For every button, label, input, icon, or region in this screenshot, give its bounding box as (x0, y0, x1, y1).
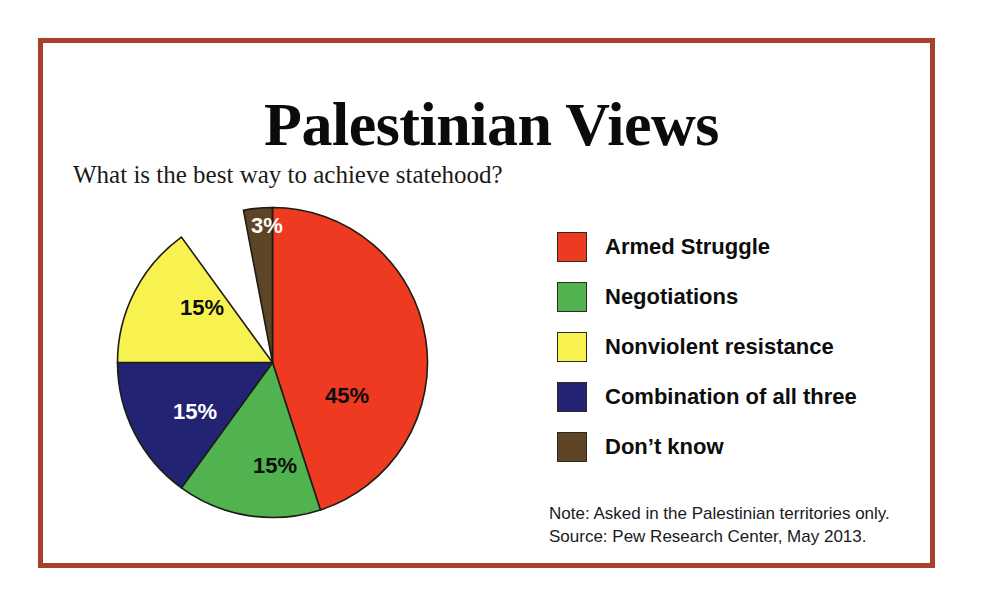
legend-item[interactable]: Nonviolent resistance (557, 322, 917, 372)
legend-item[interactable]: Combination of all three (557, 372, 917, 422)
legend-color-swatch (557, 432, 587, 462)
chart-notes: Note: Asked in the Palestinian territori… (549, 503, 890, 549)
infographic-page: Palestinian Views What is the best way t… (0, 0, 987, 603)
legend-color-swatch (557, 382, 587, 412)
legend-item-label: Armed Struggle (605, 234, 770, 260)
chart-legend: Armed StruggleNegotiationsNonviolent res… (557, 222, 917, 472)
page-title: Palestinian Views (43, 93, 940, 155)
pie-slice-value-label: 15% (253, 453, 297, 478)
pie-slice-value-label: 45% (325, 383, 369, 408)
note-line: Note: Asked in the Palestinian territori… (549, 503, 890, 526)
legend-item-label: Don’t know (605, 434, 724, 460)
legend-item-label: Combination of all three (605, 384, 857, 410)
pie-slice-value-label: 15% (173, 399, 217, 424)
chart-subtitle: What is the best way to achieve statehoo… (73, 161, 503, 189)
legend-color-swatch (557, 232, 587, 262)
chart-frame: Palestinian Views What is the best way t… (38, 38, 935, 568)
legend-item[interactable]: Armed Struggle (557, 222, 917, 272)
legend-item[interactable]: Negotiations (557, 272, 917, 322)
legend-color-swatch (557, 332, 587, 362)
pie-chart: 45%15%15%15%3% (115, 205, 430, 520)
legend-item-label: Nonviolent resistance (605, 334, 834, 360)
pie-chart-svg: 45%15%15%15%3% (115, 205, 430, 520)
source-line: Source: Pew Research Center, May 2013. (549, 526, 890, 549)
legend-item[interactable]: Don’t know (557, 422, 917, 472)
legend-color-swatch (557, 282, 587, 312)
pie-slice-value-label: 15% (180, 295, 224, 320)
pie-slice-value-label: 3% (251, 213, 283, 238)
legend-item-label: Negotiations (605, 284, 738, 310)
